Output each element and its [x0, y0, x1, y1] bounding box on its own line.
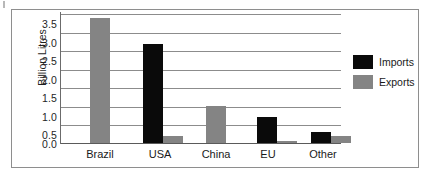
plot-area: Brazil USA China EU Other: [61, 10, 341, 169]
y-axis-title: Billion Litres: [37, 15, 48, 101]
bar-usa-imports: [143, 44, 163, 143]
chart-figure: 3.5 3.0 2.5 2.0 1.5 1.0 0.5 0.0 Billion …: [11, 9, 419, 168]
y-tick-label: 0.0: [23, 139, 57, 149]
y-tick-label: 1.0: [23, 112, 57, 122]
legend-label-exports: Exports: [379, 77, 415, 88]
x-tick-label-brazil: Brazil: [72, 148, 128, 160]
bar-usa-exports: [163, 136, 183, 143]
x-tick-label-china: China: [187, 148, 245, 160]
x-axis-baseline: [61, 143, 341, 144]
legend-swatch-imports-icon: [353, 55, 373, 69]
x-tick-label-other: Other: [294, 148, 352, 160]
x-tick-label-eu: EU: [241, 148, 295, 160]
bar-other-imports: [311, 132, 331, 143]
gridline: [61, 14, 341, 15]
bar-other-exports: [331, 136, 351, 143]
legend-item-imports: Imports: [353, 52, 415, 72]
legend-label-imports: Imports: [379, 57, 414, 68]
chart-legend: Imports Exports: [353, 52, 415, 92]
bar-eu-imports: [257, 117, 277, 143]
x-tick-label-usa: USA: [133, 148, 187, 160]
bar-brazil-exports: [90, 18, 110, 143]
scan-artifact: [3, 1, 5, 8]
legend-swatch-exports-icon: [353, 75, 373, 89]
bar-eu-exports: [277, 141, 297, 143]
bar-china-exports: [206, 106, 226, 143]
legend-item-exports: Exports: [353, 72, 415, 92]
